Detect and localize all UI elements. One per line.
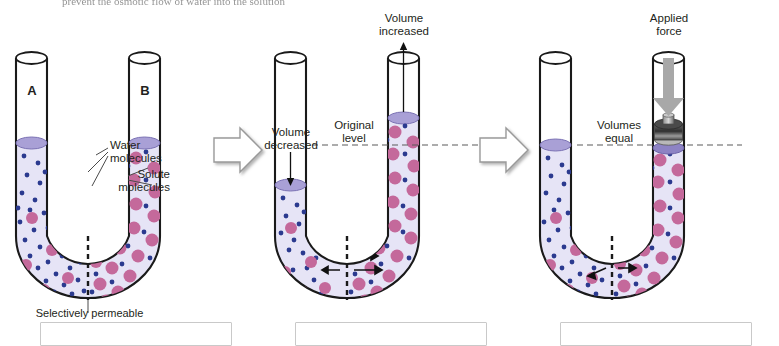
applied-force-arrow <box>653 58 684 116</box>
caption-box-2 <box>295 322 487 346</box>
u-tube-osmosis <box>273 52 421 346</box>
liquid-surface-right-osmosis <box>388 112 419 124</box>
water-molecules-label: Water molecules <box>110 139 180 164</box>
solute-molecules-label: Solute molecules <box>100 168 170 193</box>
piston-assembly <box>653 58 684 154</box>
volumes-equal-label: Volumes equal <box>590 119 648 144</box>
liquid-surface-left-initial <box>16 137 47 149</box>
transition-arrow-2 <box>480 128 528 172</box>
tube-label-a: A <box>24 85 40 98</box>
caption-box-3 <box>560 322 752 346</box>
liquid-surface-left-equilibrium <box>540 139 571 151</box>
volume-decreased-label: Volume decreased <box>262 126 320 151</box>
original-level-label: Original level <box>325 119 383 144</box>
applied-force-label: Applied force <box>640 12 698 37</box>
tube-label-b: B <box>137 85 153 98</box>
transition-arrow-1 <box>214 128 262 172</box>
caption-box-1 <box>40 322 232 346</box>
volume-increased-label: Volume increased <box>375 12 433 37</box>
